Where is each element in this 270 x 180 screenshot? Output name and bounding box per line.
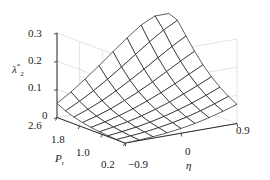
x-axis-title: Pr xyxy=(55,153,64,167)
z-axis-superscript: * xyxy=(17,62,21,70)
z-tick-3: 0 xyxy=(42,110,48,121)
z-axis-title: λ*2 xyxy=(12,63,24,78)
x-tick-1: 1.8 xyxy=(51,134,65,145)
z-tick-0: 0.3 xyxy=(28,28,42,39)
x-tick-0: 2.6 xyxy=(28,120,42,131)
y-tick-2: 0.9 xyxy=(236,125,250,136)
z-axis-subscript: 2 xyxy=(20,70,24,78)
x-axis-symbol: P xyxy=(55,152,62,164)
z-tick-2: 0.1 xyxy=(28,82,42,93)
x-tick-2: 1.0 xyxy=(76,147,90,158)
y-axis-title: η xyxy=(186,160,191,171)
y-tick-0: −0.9 xyxy=(128,159,148,170)
y-axis-symbol: η xyxy=(186,159,191,171)
y-tick-1: 0 xyxy=(185,146,191,157)
x-axis-subscript: r xyxy=(62,159,64,167)
z-tick-1: 0.2 xyxy=(28,55,42,66)
x-tick-3: 0.2 xyxy=(101,159,115,170)
surface-plot-figure: 0.3 0.2 0.1 0 λ*2 2.6 1.8 1.0 0.2 Pr −0.… xyxy=(0,0,270,180)
